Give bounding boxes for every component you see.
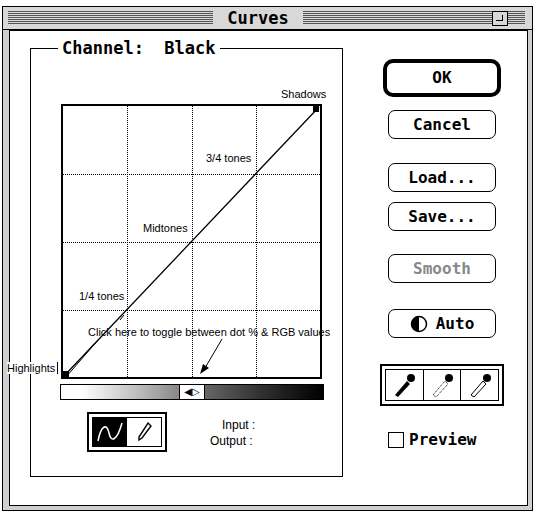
dot-rgb-toggle[interactable]: ◀▷ <box>179 385 205 399</box>
auto-button[interactable]: Auto <box>388 309 496 338</box>
black-eyedropper-icon[interactable] <box>386 370 424 400</box>
ok-button[interactable]: OK <box>383 59 501 97</box>
title-stripes <box>8 11 213 25</box>
curve-tool-icon[interactable] <box>93 418 127 446</box>
white-eyedropper-icon[interactable] <box>461 370 498 400</box>
highlights-label: Highlights <box>7 362 58 374</box>
midtones-label: Midtones <box>143 222 188 234</box>
save-button[interactable]: Save... <box>388 202 496 231</box>
gray-eyedropper-icon[interactable] <box>424 370 462 400</box>
input-label: Input : <box>222 418 255 432</box>
auto-label: Auto <box>436 310 475 337</box>
tool-selector <box>87 412 167 452</box>
channel-title: Channel: Black <box>58 38 220 58</box>
preview-checkbox-row[interactable]: Preview <box>388 430 476 449</box>
quarter-tones-label: 1/4 tones <box>79 290 124 302</box>
load-button[interactable]: Load... <box>388 163 496 192</box>
three-quarter-tones-label: 3/4 tones <box>206 152 251 164</box>
pencil-icon[interactable] <box>127 418 161 446</box>
output-label: Output : <box>210 434 253 448</box>
window-title: Curves <box>213 7 303 29</box>
smooth-button[interactable]: Smooth <box>388 254 496 283</box>
toggle-hint-label: Click here to toggle between dot % & RGB… <box>88 326 330 338</box>
shadows-label: Shadows <box>281 88 326 100</box>
contrast-icon <box>410 315 428 333</box>
preview-checkbox[interactable] <box>388 432 404 448</box>
cancel-button[interactable]: Cancel <box>388 110 496 139</box>
zoom-box-icon[interactable] <box>492 11 508 26</box>
title-bar[interactable]: Curves <box>3 7 532 30</box>
eyedropper-group <box>380 364 504 406</box>
preview-label: Preview <box>409 430 476 449</box>
